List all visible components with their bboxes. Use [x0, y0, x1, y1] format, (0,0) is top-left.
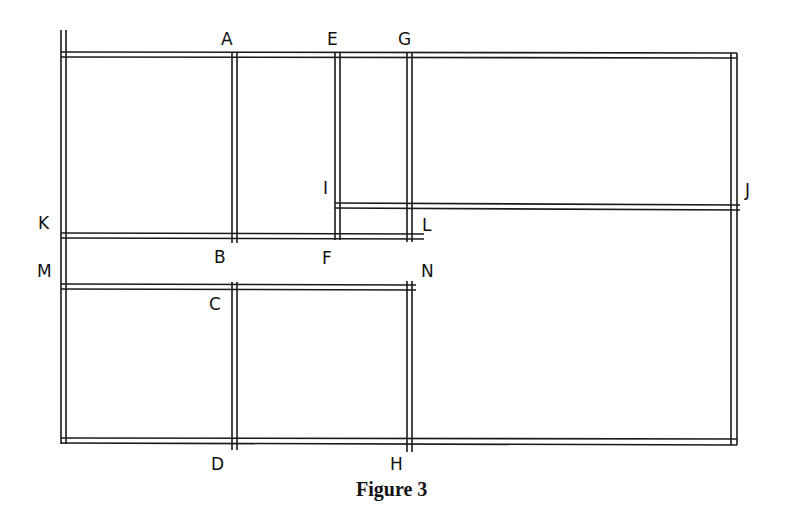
wall-IJ — [335, 203, 740, 210]
wall-MN — [61, 284, 416, 290]
wall-GL — [407, 52, 412, 242]
wall-CD — [232, 282, 237, 450]
label-C: C — [209, 294, 221, 314]
label-I: I — [323, 178, 328, 198]
label-F: F — [322, 248, 332, 268]
label-E: E — [327, 29, 338, 49]
label-J: J — [744, 180, 750, 200]
label-K: K — [38, 213, 50, 233]
label-L: L — [422, 215, 432, 235]
outer-bottom-wall — [61, 438, 737, 445]
wall-EF — [335, 52, 340, 240]
label-M: M — [37, 261, 52, 281]
outer-left-wall — [61, 30, 66, 444]
wall-AB — [232, 52, 237, 243]
label-D: D — [211, 454, 224, 474]
floor-plan-diagram: A E G I J K L B F M N C D H Figure 3 — [0, 0, 792, 521]
wall-KL — [61, 233, 424, 239]
figure-caption: Figure 3 — [356, 478, 427, 501]
label-A: A — [221, 29, 233, 49]
label-N: N — [421, 261, 434, 281]
outer-top-wall — [61, 52, 737, 58]
label-B: B — [214, 247, 226, 267]
wall-NH — [407, 281, 412, 452]
outer-right-wall — [731, 53, 737, 445]
label-H: H — [390, 454, 403, 474]
label-G: G — [398, 29, 411, 49]
